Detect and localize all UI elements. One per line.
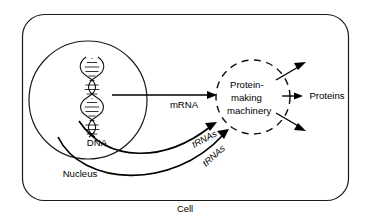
protein-output-arrow-middle <box>282 93 303 100</box>
machinery-label-line2: making <box>231 92 262 103</box>
protein-output-arrow-top <box>276 62 306 80</box>
machinery-label-line3: machinery <box>227 105 271 116</box>
mrna-label: mRNA <box>170 99 199 110</box>
diagram-canvas: Protein- making machinery mRNA Proteins … <box>0 0 365 219</box>
trna-label-lower: tRNAs <box>201 143 228 168</box>
cell-label: Cell <box>177 203 193 214</box>
dna-label: DNA <box>87 137 108 148</box>
trna-lower-arrowhead <box>217 129 229 139</box>
dna-double-helix <box>80 57 104 137</box>
protein-output-middle-arrowhead <box>294 93 303 100</box>
machinery-label-line1: Protein- <box>230 79 264 90</box>
mrna-arrow <box>112 91 217 99</box>
proteins-label: Proteins <box>309 90 344 101</box>
cell-protein-synthesis-diagram: Protein- making machinery mRNA Proteins … <box>0 0 365 219</box>
nucleus-label: Nucleus <box>63 168 98 179</box>
